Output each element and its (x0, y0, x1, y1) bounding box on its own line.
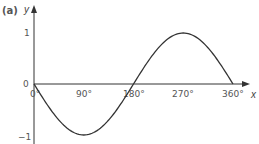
part-label: (a) (2, 5, 18, 16)
x-tick-90: 90° (76, 89, 92, 99)
x-tick-360: 360° (222, 89, 244, 99)
y-axis-label: y (23, 4, 30, 15)
x-tick-270: 270° (172, 89, 194, 99)
y-tick-minus-1: −1 (18, 132, 31, 142)
y-tick-1: 1 (24, 28, 30, 38)
x-axis-label: x (250, 89, 257, 100)
sine-graph: (a) y x 1 0 −1 0° 90° 180° 270° 360° (0, 0, 259, 144)
y-axis-arrow-icon (31, 5, 37, 13)
x-axis-arrow-icon (242, 81, 250, 87)
origin-y-label: 0 (23, 79, 29, 89)
x-tick-180: 180° (123, 89, 145, 99)
